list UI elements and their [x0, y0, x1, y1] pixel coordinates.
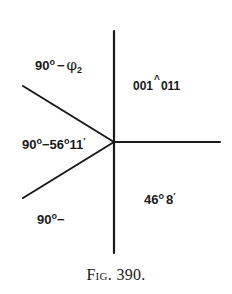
phi-symbol: φ: [67, 56, 78, 74]
label-upper-left: 90o−φ2: [35, 58, 82, 73]
label-lower-left: 90o−: [37, 213, 65, 226]
degree-symbol: o: [49, 57, 55, 67]
figure-caption: Fig. 390.: [0, 266, 232, 284]
degree-symbol: o: [158, 191, 164, 201]
label-middle-left-c: 11: [70, 137, 84, 152]
face-index-left: 001: [133, 79, 153, 93]
minus-sign: −: [42, 137, 50, 152]
label-lower-right: 46o8′: [144, 193, 175, 206]
minus-sign: −: [57, 212, 65, 227]
line-upper-left: [23, 86, 114, 142]
prime-symbol: ′: [173, 191, 175, 201]
angle-caret: ^: [154, 74, 160, 85]
label-middle-left-a: 90: [22, 137, 36, 152]
label-lower-right-a: 46: [144, 192, 158, 207]
minus-sign: −: [57, 58, 65, 73]
phi-subscript: 2: [77, 65, 82, 75]
prime-symbol: ′: [83, 136, 85, 146]
label-middle-left-b: 56: [50, 137, 64, 152]
label-upper-right: 001^011: [133, 80, 180, 92]
label-upper-left-base: 90: [35, 58, 49, 73]
label-middle-left: 90o−56o11′: [22, 138, 85, 151]
face-index-right: 011: [161, 79, 180, 93]
label-lower-left-a: 90: [37, 212, 51, 227]
